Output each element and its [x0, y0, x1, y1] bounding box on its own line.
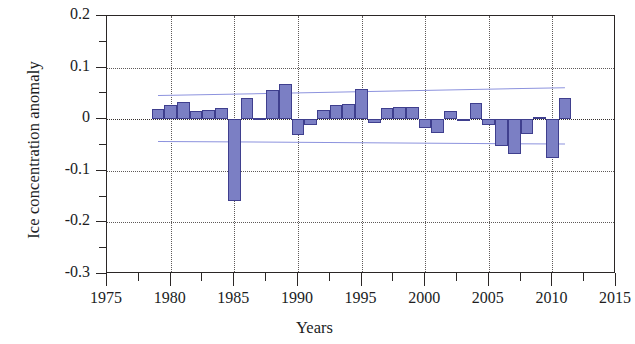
- gridline-horizontal: [107, 222, 614, 223]
- x-axis-minor-tick: [138, 273, 139, 281]
- x-axis-tick-label: 1995: [331, 289, 391, 307]
- y-axis-tick: [96, 67, 106, 68]
- bar-1983: [202, 110, 215, 119]
- bar-1991: [304, 119, 317, 125]
- y-axis-tick: [96, 273, 106, 274]
- x-axis-tick: [297, 273, 298, 286]
- bar-2008: [521, 119, 534, 133]
- x-axis-tick-label: 1975: [76, 289, 136, 307]
- x-axis-title: Years: [0, 318, 629, 338]
- x-axis-minor-tick: [583, 273, 584, 281]
- x-axis-tick: [488, 273, 489, 286]
- x-axis-minor-tick: [456, 273, 457, 281]
- y-axis-minor-tick: [99, 41, 106, 42]
- bar-2010: [546, 119, 559, 158]
- y-axis-tick: [96, 15, 106, 16]
- bar-1985: [228, 119, 241, 201]
- x-axis-tick: [106, 273, 107, 286]
- y-axis-tick: [96, 118, 106, 119]
- gridline-vertical: [362, 16, 363, 272]
- bar-1995: [355, 89, 368, 119]
- y-axis-tick-label: -0.1: [28, 160, 90, 178]
- x-axis-minor-tick: [520, 273, 521, 281]
- bar-1994: [342, 104, 355, 119]
- y-axis-minor-tick: [99, 144, 106, 145]
- bar-1987: [253, 118, 266, 120]
- bar-2011: [559, 98, 572, 120]
- y-axis-tick-label: -0.2: [28, 211, 90, 229]
- x-axis-tick: [233, 273, 234, 286]
- bar-1993: [330, 105, 343, 119]
- y-axis-tick: [96, 221, 106, 222]
- x-axis-minor-tick: [201, 273, 202, 281]
- x-axis-tick: [551, 273, 552, 286]
- bar-2007: [508, 119, 521, 154]
- gridline-horizontal: [107, 171, 614, 172]
- bar-2002: [444, 111, 457, 119]
- y-axis-minor-tick: [99, 92, 106, 93]
- bar-2003: [457, 119, 470, 121]
- y-axis-tick-label: 0: [28, 108, 90, 126]
- gridline-vertical: [171, 16, 172, 272]
- plot-area: [106, 15, 615, 273]
- bar-1979: [152, 109, 165, 119]
- bar-1990: [292, 119, 305, 135]
- y-axis-tick-label: 0.2: [28, 5, 90, 23]
- bar-1996: [368, 119, 381, 123]
- bar-2006: [495, 119, 508, 145]
- bar-1982: [190, 111, 203, 119]
- y-axis-tick-label: 0.1: [28, 57, 90, 75]
- y-axis-minor-tick: [99, 247, 106, 248]
- bar-1981: [177, 102, 190, 120]
- bar-1986: [241, 98, 254, 119]
- x-axis-tick-label: 1990: [267, 289, 327, 307]
- gridline-horizontal: [107, 68, 614, 69]
- x-axis-tick-label: 2005: [458, 289, 518, 307]
- x-axis-tick-label: 1980: [140, 289, 200, 307]
- bar-2004: [470, 103, 483, 120]
- x-axis-minor-tick: [329, 273, 330, 281]
- bar-2009: [533, 117, 546, 119]
- bar-1992: [317, 110, 330, 119]
- bar-1988: [266, 90, 279, 119]
- bar-2001: [431, 119, 444, 132]
- gridline-vertical: [298, 16, 299, 272]
- x-axis-tick: [615, 273, 616, 286]
- y-axis-tick: [96, 170, 106, 171]
- y-axis-tick-label: -0.3: [28, 263, 90, 281]
- bar-1980: [164, 105, 177, 119]
- bar-1998: [393, 107, 406, 119]
- x-axis-tick: [424, 273, 425, 286]
- x-axis-tick-label: 1985: [203, 289, 263, 307]
- zero-baseline: [107, 119, 614, 120]
- gridline-vertical: [425, 16, 426, 272]
- x-axis-tick: [170, 273, 171, 286]
- bar-1984: [215, 108, 228, 119]
- y-axis-minor-tick: [99, 196, 106, 197]
- x-axis-tick: [361, 273, 362, 286]
- x-axis-tick-label: 2015: [585, 289, 635, 307]
- bar-1999: [406, 107, 419, 119]
- bar-2000: [419, 119, 432, 128]
- bar-1989: [279, 84, 292, 119]
- x-axis-minor-tick: [265, 273, 266, 281]
- x-axis-tick-label: 2010: [521, 289, 581, 307]
- x-axis-minor-tick: [392, 273, 393, 281]
- bar-2005: [482, 119, 495, 125]
- bar-1997: [381, 108, 394, 119]
- x-axis-tick-label: 2000: [394, 289, 454, 307]
